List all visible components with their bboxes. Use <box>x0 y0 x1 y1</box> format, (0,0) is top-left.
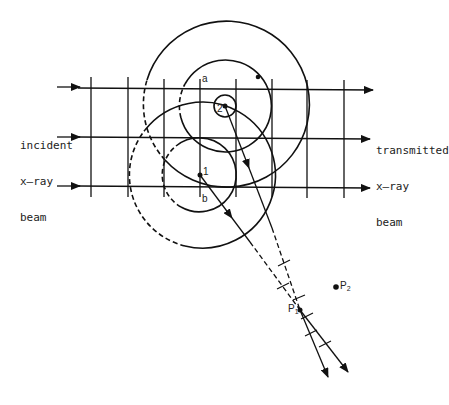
small-dot <box>256 75 261 80</box>
incident-line-1: incident <box>20 140 73 152</box>
label-b: b <box>202 193 208 204</box>
label-P1: P1 <box>288 303 299 315</box>
incident-beam-label: incident x–ray beam <box>20 116 73 236</box>
label-a: a <box>202 73 208 84</box>
incident-line-2: x–ray <box>20 176 73 188</box>
P1-sub: 1 <box>295 308 299 315</box>
transmitted-beam-label: transmitted x–ray beam <box>376 121 449 241</box>
ray-ticks <box>277 260 331 347</box>
beam-lines <box>78 88 373 188</box>
scatterer-2-point <box>223 104 228 109</box>
transmitted-line-2: x–ray <box>376 181 449 193</box>
transmitted-line-3: beam <box>376 217 449 229</box>
label-P2: P2 <box>340 280 351 292</box>
P1-main: P <box>288 303 295 314</box>
transmitted-line-1: transmitted <box>376 145 449 157</box>
scatterer-1-point <box>198 173 203 178</box>
label-2: 2 <box>217 103 223 114</box>
incident-line-3: beam <box>20 212 73 224</box>
point-P2 <box>333 284 339 290</box>
label-1: 1 <box>203 166 209 177</box>
P2-sub: 2 <box>347 285 351 292</box>
P2-main: P <box>340 280 347 291</box>
